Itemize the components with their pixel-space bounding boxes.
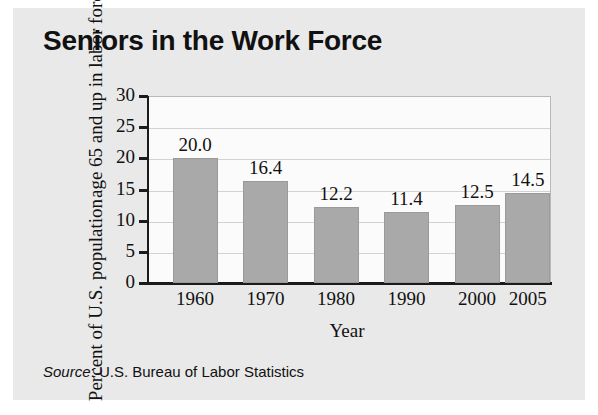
y-axis-tick-label: 10 xyxy=(95,209,135,231)
y-axis-tick-mark xyxy=(139,157,148,160)
bar-value-label: 14.5 xyxy=(498,169,558,191)
chart-figure: Seniors in the Work Force Percent of U.S… xyxy=(13,8,585,400)
y-axis-tick-mark xyxy=(139,220,148,223)
bar xyxy=(455,205,500,283)
x-axis-tick-label: 1980 xyxy=(306,288,366,310)
bar xyxy=(243,181,288,283)
bar xyxy=(384,212,429,283)
x-axis-title-text: Year xyxy=(329,320,364,341)
bar xyxy=(505,193,550,283)
source-label: Source xyxy=(43,363,91,380)
gridline xyxy=(149,128,550,129)
source-text: U.S. Bureau of Labor Statistics xyxy=(99,363,304,380)
x-axis-tick-label: 1990 xyxy=(377,288,437,310)
y-axis-tick-mark xyxy=(139,126,148,129)
x-axis-tick-label: 1960 xyxy=(165,288,225,310)
y-axis-tick-mark xyxy=(139,189,148,192)
y-axis-tick-labels: 302520151050 xyxy=(91,8,135,415)
source-note: Source: U.S. Bureau of Labor Statistics xyxy=(43,363,304,380)
bar-value-label: 11.4 xyxy=(377,188,437,210)
y-axis-tick-label: 20 xyxy=(95,146,135,168)
y-axis-tick-mark xyxy=(139,282,148,285)
bar-value-label: 20.0 xyxy=(165,134,225,156)
y-axis-tick-label: 5 xyxy=(95,240,135,262)
bar xyxy=(173,158,218,283)
source-separator: : xyxy=(91,363,99,380)
y-axis-tick-label: 0 xyxy=(95,271,135,293)
bar-value-label: 16.4 xyxy=(236,157,296,179)
bar xyxy=(314,207,359,283)
y-axis-tick-label: 25 xyxy=(95,115,135,137)
x-axis-tick-label: 1970 xyxy=(236,288,296,310)
x-axis-title: Year xyxy=(13,320,598,342)
y-axis-tick-label: 15 xyxy=(95,178,135,200)
x-axis-tick-label: 2005 xyxy=(498,288,558,310)
bar-value-label: 12.2 xyxy=(306,183,366,205)
y-axis-tick-mark xyxy=(139,251,148,254)
y-axis-tick-mark xyxy=(139,95,148,98)
y-axis-tick-label: 30 xyxy=(95,84,135,106)
